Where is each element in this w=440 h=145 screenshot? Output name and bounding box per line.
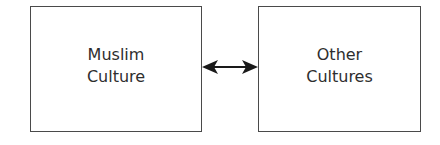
node-label-line2: Culture [87, 66, 145, 88]
bidirectional-arrow-icon [201, 58, 259, 76]
node-label-line2: Cultures [306, 66, 373, 88]
node-label: Muslim Culture [87, 44, 145, 88]
node-label-line1: Other [306, 44, 373, 66]
node-label: Other Cultures [306, 44, 373, 88]
node-other-cultures: Other Cultures [258, 6, 421, 132]
node-label-line1: Muslim [87, 44, 145, 66]
node-muslim-culture: Muslim Culture [30, 6, 202, 132]
